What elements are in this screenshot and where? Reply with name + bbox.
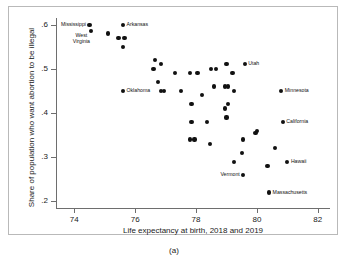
data-point — [195, 71, 199, 75]
data-point-label: California — [286, 119, 308, 125]
data-point — [106, 31, 110, 35]
data-point — [151, 67, 155, 71]
data-point — [173, 71, 177, 75]
data-point — [200, 93, 204, 97]
data-point — [209, 67, 213, 71]
data-point — [232, 89, 236, 93]
data-point — [121, 89, 125, 93]
figure-panel: Share of population who want abortion to… — [0, 0, 348, 272]
data-point — [122, 36, 126, 40]
data-point-label: Hawaii — [291, 159, 307, 165]
data-point-label: West Virginia — [73, 33, 90, 44]
data-point-label: Minnesota — [285, 88, 309, 94]
data-point — [212, 84, 216, 88]
data-point — [279, 89, 283, 93]
data-point — [189, 120, 193, 124]
data-point — [265, 164, 269, 168]
data-point — [87, 23, 91, 27]
data-point — [159, 62, 163, 66]
data-point — [226, 84, 230, 88]
data-point-label: Mississippi — [61, 22, 86, 28]
data-point — [214, 67, 218, 71]
data-point — [116, 36, 120, 40]
data-point — [179, 89, 183, 93]
data-point — [224, 115, 228, 119]
data-point-label: Massachusetts — [273, 190, 308, 196]
data-point — [241, 173, 245, 177]
data-point-label: Arkansas — [126, 22, 148, 28]
data-point-label: Vermont — [220, 172, 239, 178]
data-point-label: Utah — [248, 62, 259, 68]
data-point — [285, 160, 289, 164]
data-point — [153, 58, 157, 62]
data-point — [121, 45, 125, 49]
data-point — [121, 23, 125, 27]
data-point — [281, 120, 285, 124]
data-point — [243, 62, 247, 66]
data-point — [205, 120, 209, 124]
data-point — [208, 142, 212, 146]
data-point — [223, 106, 227, 110]
data-point — [230, 71, 234, 75]
data-point — [192, 137, 196, 141]
data-point — [188, 71, 192, 75]
data-point — [162, 89, 166, 93]
data-point — [232, 160, 236, 164]
data-point — [240, 151, 244, 155]
data-point — [267, 190, 271, 194]
scatter-points: MississippiWest VirginiaArkansasOklahoma… — [0, 0, 348, 272]
figure-caption: (a) — [0, 246, 348, 255]
data-point — [273, 146, 277, 150]
data-point — [224, 62, 228, 66]
data-point — [188, 137, 192, 141]
data-point — [241, 137, 245, 141]
data-point-label: Oklahoma — [126, 88, 150, 94]
data-point — [189, 102, 193, 106]
data-point — [255, 129, 259, 133]
data-point — [156, 80, 160, 84]
data-point — [226, 102, 230, 106]
